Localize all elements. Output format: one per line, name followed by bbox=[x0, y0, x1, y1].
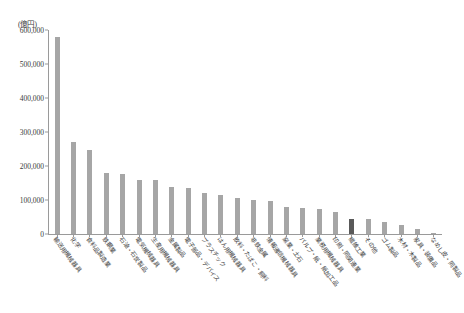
x-axis-category-label: なめし皮・同製品 bbox=[429, 236, 463, 278]
bar-slot bbox=[278, 30, 294, 234]
bar bbox=[333, 212, 338, 234]
bar-slot bbox=[246, 30, 262, 234]
bar-slot bbox=[98, 30, 114, 234]
x-axis-category-label: 化学 bbox=[68, 236, 80, 249]
y-axis-tick-mark bbox=[45, 166, 48, 167]
bar bbox=[317, 209, 322, 234]
bar-slot bbox=[147, 30, 163, 234]
y-axis-tick-mark bbox=[45, 30, 48, 31]
x-axis-label-slot: ゴム製品 bbox=[377, 236, 393, 313]
x-axis-label-slot: 窯業・土石 bbox=[278, 236, 294, 313]
x-axis-label-slot: 情報通信機械器具 bbox=[262, 236, 278, 313]
bar-highlighted bbox=[349, 219, 354, 234]
y-axis-tick-mark bbox=[45, 200, 48, 201]
bar bbox=[202, 193, 207, 234]
bar-slot bbox=[115, 30, 131, 234]
bar bbox=[169, 187, 174, 234]
bar-slot bbox=[311, 30, 327, 234]
y-axis-tick-label: 500,000 bbox=[20, 60, 44, 69]
x-axis-label-slot: はん用機械器具 bbox=[213, 236, 229, 313]
bar-slot bbox=[393, 30, 409, 234]
x-axis-label-slot: 電子部品・デバイス bbox=[180, 236, 196, 313]
x-axis-label-slot: 金属製品 bbox=[164, 236, 180, 313]
bar-slot bbox=[295, 30, 311, 234]
bar-slot bbox=[327, 30, 343, 234]
bar-slot bbox=[49, 30, 65, 234]
x-axis-label-slot: 化学 bbox=[65, 236, 81, 313]
y-axis-tick-label: 200,000 bbox=[20, 162, 44, 171]
bar bbox=[268, 201, 273, 234]
x-axis-label-slot: 印刷・同関連業 bbox=[327, 236, 343, 313]
bar-slot bbox=[377, 30, 393, 234]
y-axis-tick-mark bbox=[45, 98, 48, 99]
bar bbox=[399, 225, 404, 234]
x-axis-label-slot: なめし皮・同製品 bbox=[426, 236, 442, 313]
bar bbox=[251, 200, 256, 234]
x-axis-label-slot: 繊維工業 bbox=[344, 236, 360, 313]
x-axis-label-slot: プラスチック bbox=[196, 236, 212, 313]
bar-slot bbox=[164, 30, 180, 234]
x-axis-label-slot: 電気機械器具 bbox=[131, 236, 147, 313]
y-axis-tick-label: 400,000 bbox=[20, 94, 44, 103]
bar-slot bbox=[131, 30, 147, 234]
bar bbox=[137, 180, 142, 234]
bar bbox=[186, 188, 191, 234]
bar-slot bbox=[65, 30, 81, 234]
x-axis-label-slot: 生産用機械器具 bbox=[147, 236, 163, 313]
bar-slot bbox=[426, 30, 442, 234]
bar bbox=[284, 207, 289, 234]
plot-area: 600,000500,000400,000300,000200,000100,0… bbox=[48, 30, 442, 234]
bar bbox=[104, 173, 109, 234]
bar-series bbox=[49, 30, 442, 234]
bar-slot bbox=[82, 30, 98, 234]
bar bbox=[366, 219, 371, 234]
x-axis-label-slot: 家具・装備品 bbox=[409, 236, 425, 313]
x-axis-category-labels: 輸送用機械器具化学食料品製造業鉄鋼業石油・石炭製品電気機械器具生産用機械器具金属… bbox=[49, 236, 442, 313]
bar-slot bbox=[409, 30, 425, 234]
y-axis-tick-label: 100,000 bbox=[20, 196, 44, 205]
bar-slot bbox=[262, 30, 278, 234]
y-axis-tick-mark bbox=[45, 234, 48, 235]
x-axis-label-slot: 木材・木製品 bbox=[393, 236, 409, 313]
x-axis-label-slot: 鉄鋼業 bbox=[98, 236, 114, 313]
x-axis-label-slot: 食料品製造業 bbox=[82, 236, 98, 313]
bar-slot bbox=[360, 30, 376, 234]
bar-slot bbox=[344, 30, 360, 234]
y-axis-tick-label: 0 bbox=[40, 230, 44, 239]
x-axis-label-slot: 輸送用機械器具 bbox=[49, 236, 65, 313]
bar bbox=[55, 37, 60, 234]
bar bbox=[153, 180, 158, 234]
bar bbox=[218, 195, 223, 234]
y-axis-tick-mark bbox=[45, 64, 48, 65]
x-axis-label-slot: パルプ・紙・紙加工品 bbox=[295, 236, 311, 313]
bar bbox=[87, 150, 92, 234]
x-axis-label-slot: 非鉄金属 bbox=[246, 236, 262, 313]
bar bbox=[382, 222, 387, 234]
x-axis-label-slot: 石油・石炭製品 bbox=[115, 236, 131, 313]
x-axis-label-slot: 業務用機械器具 bbox=[311, 236, 327, 313]
y-axis-tick-mark bbox=[45, 132, 48, 133]
bar bbox=[71, 142, 76, 234]
bar bbox=[120, 174, 125, 234]
y-axis-tick-label: 300,000 bbox=[20, 128, 44, 137]
y-axis-tick-label: 600,000 bbox=[20, 26, 44, 35]
bar-slot bbox=[180, 30, 196, 234]
bar bbox=[300, 208, 305, 234]
bar-slot bbox=[213, 30, 229, 234]
bar bbox=[235, 198, 240, 234]
x-axis-label-slot: 飲料・たばこ・飼料 bbox=[229, 236, 245, 313]
x-axis-label-slot: その他 bbox=[360, 236, 376, 313]
bar-slot bbox=[229, 30, 245, 234]
bar-slot bbox=[196, 30, 212, 234]
